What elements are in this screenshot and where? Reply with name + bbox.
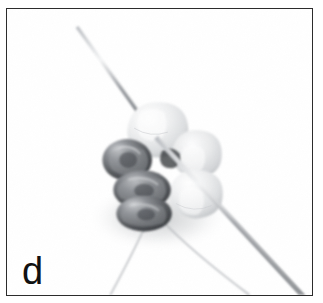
- panel-label: d: [22, 252, 43, 290]
- beading-photograph: [7, 9, 312, 295]
- figure-panel: d: [0, 0, 323, 303]
- photo-frame: [6, 8, 313, 296]
- photo-grain: [7, 9, 312, 295]
